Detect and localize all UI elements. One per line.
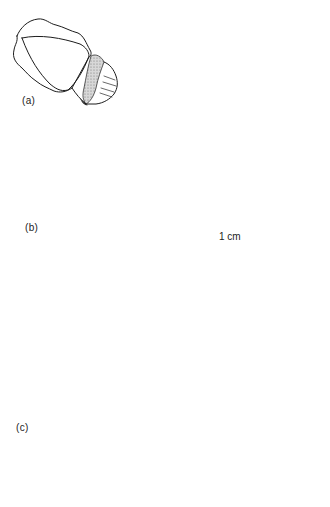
panel-label-b: (b)	[25, 222, 38, 233]
scale-bar-label: 1 cm	[219, 231, 241, 242]
diagram-canvas	[0, 0, 330, 507]
panel-label-c: (c)	[16, 422, 29, 433]
specimen-a	[13, 19, 117, 105]
panel-label-a: (a)	[22, 95, 35, 106]
